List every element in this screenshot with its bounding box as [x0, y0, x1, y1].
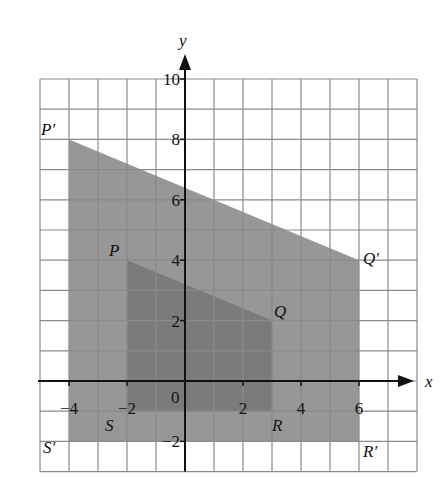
y-tick-label: 2 — [172, 312, 181, 331]
origin-label: 0 — [171, 388, 180, 407]
y-tick-label: 4 — [172, 251, 181, 270]
vertex-label: Q — [274, 302, 286, 321]
vertex-label: R′ — [362, 442, 377, 461]
y-axis-arrow-icon — [179, 54, 191, 70]
vertex-label: Q′ — [363, 249, 379, 268]
x-tick-label: 6 — [355, 399, 364, 418]
y-tick-label: 10 — [163, 70, 180, 89]
vertex-label: S — [105, 416, 114, 435]
x-tick-label: 2 — [239, 399, 248, 418]
vertex-label: R — [271, 416, 283, 435]
vertex-label: P — [108, 241, 119, 260]
x-tick-label: −2 — [118, 399, 136, 418]
y-tick-label: −2 — [162, 432, 180, 451]
vertex-label: P′ — [40, 120, 55, 139]
vertex-label: S′ — [43, 438, 56, 457]
y-tick-label: 8 — [172, 130, 181, 149]
x-axis-arrow-icon — [398, 375, 414, 387]
y-axis-label: y — [177, 31, 187, 50]
coordinate-grid-diagram: xy −4−2246108642−20 P′Q′R′S′PQRS — [0, 0, 441, 478]
x-tick-label: −4 — [60, 399, 79, 418]
x-tick-label: 4 — [297, 399, 306, 418]
y-tick-label: 6 — [172, 191, 181, 210]
x-axis-label: x — [424, 372, 433, 391]
